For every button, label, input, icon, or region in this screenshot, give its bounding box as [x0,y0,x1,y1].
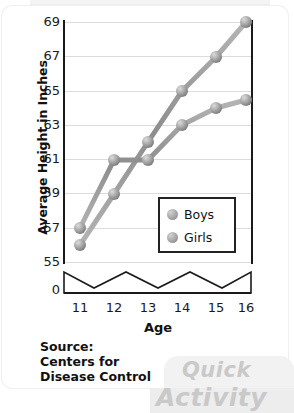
x-tick-12: 12 [99,300,129,315]
legend-marker-icon-boys [167,209,178,220]
source-credit: Source: Centers for Disease Control [40,339,151,384]
gridline-65 [64,91,252,92]
right-axis-line [251,20,253,264]
x-tick-13: 13 [133,300,163,315]
y-axis-line [63,20,65,264]
axis-zero-label: 0 [40,282,60,297]
gridline-59 [64,193,252,194]
y-tick-55: 55 [26,255,60,268]
legend-item-boys: Boys [167,203,234,226]
badge-word-quick: Quick [182,358,251,382]
source-line-3: Disease Control [40,369,151,384]
legend-label-girls: Girls [184,230,212,245]
gridline-61 [64,159,252,160]
badge-word-activity: Activity [156,383,267,412]
gridline-63 [64,125,252,126]
legend-label-boys: Boys [184,207,214,222]
x-tick-14: 14 [167,300,197,315]
legend-item-girls: Girls [167,226,234,249]
x-axis-title: Age [64,320,252,335]
gridline-69 [64,22,252,23]
source-line-2: Centers for [40,354,151,369]
source-line-1: Source: [40,339,151,354]
legend-marker-icon-girls [167,232,178,243]
chart-legend: Boys Girls [158,197,236,253]
axis-break-band [63,266,253,294]
gridline-67 [64,56,252,57]
quick-activity-badge: Quick Activity [150,352,294,413]
y-axis-title-holder: Average Height in Inches [8,0,28,300]
chart-page: 69 67 65 63 61 59 57 55 Average Height i… [0,0,294,413]
x-tick-16: 16 [231,300,261,315]
x-tick-15: 15 [201,300,231,315]
y-axis-title: Average Height in Inches [35,48,50,248]
gridline-55 [64,262,252,263]
x-tick-11: 11 [65,300,95,315]
y-tick-69: 69 [26,15,60,28]
